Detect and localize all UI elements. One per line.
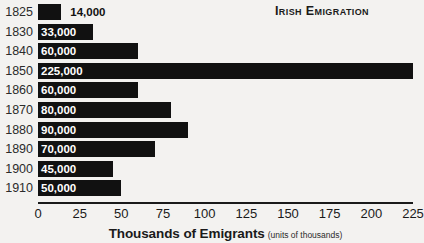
x-axis-caption: Thousands of Emigrants(units of thousand… (38, 224, 413, 242)
bar-track: 225,000 (38, 63, 413, 79)
bar-value-label: 60,000 (41, 43, 76, 59)
chart-row: 188090,000 (0, 122, 423, 141)
x-tick-label: 125 (235, 206, 257, 221)
bar-value-label: 50,000 (41, 180, 76, 196)
x-axis-label-note: (units of thousands) (268, 230, 343, 240)
bar-track: 45,000 (38, 161, 413, 177)
year-label: 1880 (0, 122, 33, 138)
x-tick-label: 0 (34, 206, 41, 221)
x-tick-label: 50 (114, 206, 128, 221)
bar-value-label: 60,000 (41, 82, 76, 98)
year-label: 1900 (0, 161, 33, 177)
bar-track: 80,000 (38, 102, 413, 118)
chart-row: 184060,000 (0, 43, 423, 62)
bar-value-label: 225,000 (41, 63, 83, 79)
chart-row: 189070,000 (0, 141, 423, 160)
year-label: 1890 (0, 141, 33, 157)
chart-row: 186060,000 (0, 82, 423, 101)
bar-track: 14,000 (38, 4, 413, 20)
year-label: 1910 (0, 180, 33, 196)
bar-value-label: 90,000 (41, 122, 76, 138)
bar (38, 4, 61, 20)
x-tick-label: 100 (194, 206, 216, 221)
bar-value-label: 14,000 (70, 4, 105, 20)
year-label: 1870 (0, 102, 33, 118)
chart-row: 190045,000 (0, 161, 423, 180)
chart-row: 191050,000 (0, 180, 423, 199)
bar-value-label: 70,000 (41, 141, 76, 157)
bar-value-label: 45,000 (41, 161, 76, 177)
bar-track: 50,000 (38, 180, 413, 196)
x-axis-label: Thousands of Emigrants (109, 226, 265, 241)
bar-track: 70,000 (38, 141, 413, 157)
year-label: 1840 (0, 43, 33, 59)
bar (38, 63, 413, 79)
x-tick-label: 200 (360, 206, 382, 221)
x-tick-label: 225 (402, 206, 424, 221)
bar-track: 60,000 (38, 82, 413, 98)
chart-row: 187080,000 (0, 102, 423, 121)
plot-area: 182514,000183033,000184060,0001850225,00… (0, 0, 423, 205)
x-tick-label: 25 (72, 206, 86, 221)
year-label: 1860 (0, 82, 33, 98)
x-tick-label: 150 (277, 206, 299, 221)
chart-row: 183033,000 (0, 24, 423, 43)
chart-row: 182514,000 (0, 4, 423, 23)
bar-track: 90,000 (38, 122, 413, 138)
bar-track: 60,000 (38, 43, 413, 59)
x-tick-label: 75 (156, 206, 170, 221)
bar-value-label: 33,000 (41, 24, 76, 40)
bar-track: 33,000 (38, 24, 413, 40)
bar-value-label: 80,000 (41, 102, 76, 118)
x-tick-label: 175 (319, 206, 341, 221)
year-label: 1850 (0, 63, 33, 79)
year-label: 1825 (0, 4, 33, 20)
x-axis-line (38, 202, 413, 204)
chart-row: 1850225,000 (0, 63, 423, 82)
year-label: 1830 (0, 24, 33, 40)
